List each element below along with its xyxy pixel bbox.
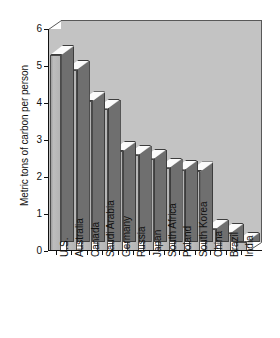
bar-side-face <box>92 92 105 242</box>
y-tick-mark <box>44 66 48 67</box>
x-tick-label: Australia <box>75 218 85 257</box>
x-tick-label: China <box>214 231 224 257</box>
y-axis-tick-labels: 0123456 <box>26 0 42 338</box>
x-axis-tick-labels: IndiaBrazilChinaSouth KoreaPolandSouth A… <box>48 251 262 338</box>
y-tick-mark <box>44 103 48 104</box>
y-tick-label: 1 <box>28 209 42 219</box>
y-tick-label: 3 <box>28 135 42 145</box>
y-tick-mark <box>44 140 48 141</box>
bar-front-face <box>50 55 61 251</box>
bar <box>50 46 61 251</box>
y-tick-mark <box>44 29 48 30</box>
x-tick-label: Germany <box>122 216 132 257</box>
x-tick-label: South Africa <box>168 203 178 257</box>
x-tick-label: Poland <box>183 226 193 257</box>
y-tick-mark <box>44 177 48 178</box>
y-axis-line <box>48 29 49 251</box>
bar-side-face <box>61 46 74 242</box>
x-tick-label: Canada <box>91 222 101 257</box>
x-tick-label: Brazil <box>230 232 240 257</box>
x-tick-label: South Korea <box>199 201 209 257</box>
y-tick-label: 4 <box>28 98 42 108</box>
x-tick-label: Saudi Arabia <box>106 200 116 257</box>
x-tick-label: Russia <box>137 226 147 257</box>
y-tick-label: 2 <box>28 172 42 182</box>
y-tick-label: 5 <box>28 61 42 71</box>
plot-area <box>48 20 262 251</box>
bar-side-face <box>77 61 90 242</box>
x-tick-label: U.S. <box>60 238 70 257</box>
y-tick-label: 6 <box>28 24 42 34</box>
y-tick-mark <box>44 214 48 215</box>
bar-side-face <box>154 150 167 243</box>
y-tick-label: 0 <box>28 246 42 256</box>
x-tick-label: India <box>245 235 255 257</box>
bar-chart: Metric tons of carbon per person 0123456… <box>0 0 280 338</box>
x-tick-label: Japan <box>153 230 163 257</box>
